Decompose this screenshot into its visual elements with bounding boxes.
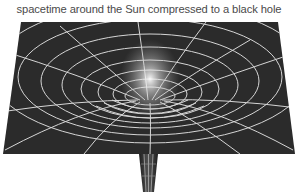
spacetime-funnel-diagram (0, 0, 298, 194)
central-glow (120, 35, 180, 115)
funnel-tube (139, 154, 158, 192)
